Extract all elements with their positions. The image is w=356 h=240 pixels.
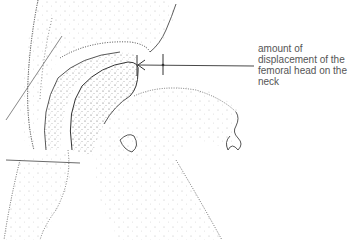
- femoral-neck: [96, 87, 241, 240]
- annotation-line-2: displacement of the: [258, 54, 356, 65]
- annotation-line-1: amount of: [258, 43, 356, 54]
- annotation-line-4: neck: [258, 76, 356, 87]
- annotation-label: amount of displacement of the femoral he…: [258, 43, 356, 87]
- annotation-line-3: femoral head on the: [258, 65, 356, 76]
- hip-joint-illustration: [0, 0, 356, 240]
- displacement-pointer: [137, 54, 254, 76]
- ischium: [4, 150, 80, 240]
